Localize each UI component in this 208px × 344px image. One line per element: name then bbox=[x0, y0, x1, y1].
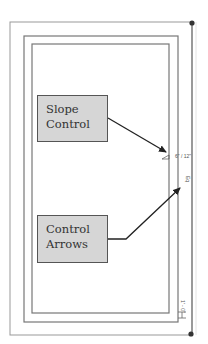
wall-outline-inner bbox=[32, 44, 169, 313]
slope-control-arrow bbox=[108, 118, 166, 152]
wall-outline-outer bbox=[24, 36, 178, 322]
outer-roof-outline bbox=[10, 22, 192, 335]
bottom-corner-grip[interactable] bbox=[188, 331, 193, 336]
callout-line: Control bbox=[46, 222, 107, 237]
control-arrows-callout: Control Arrows bbox=[37, 215, 108, 263]
eq-label[interactable]: Eq bbox=[185, 176, 191, 182]
top-corner-grip[interactable] bbox=[189, 20, 194, 25]
slope-arrow-symbol-icon[interactable] bbox=[162, 155, 169, 159]
dimension-label[interactable]: 1' - 0" bbox=[180, 300, 186, 313]
callout-line: Slope bbox=[46, 102, 107, 117]
dimension-bracket bbox=[178, 312, 186, 318]
slope-label[interactable]: 6" / 12" bbox=[175, 153, 191, 159]
callout-line: Control bbox=[46, 117, 107, 132]
slope-control-callout: Slope Control bbox=[37, 95, 108, 142]
callout-line: Arrows bbox=[46, 237, 107, 252]
roof-plan-drawing: 6" / 12" Eq 1' - 0" bbox=[0, 0, 208, 344]
